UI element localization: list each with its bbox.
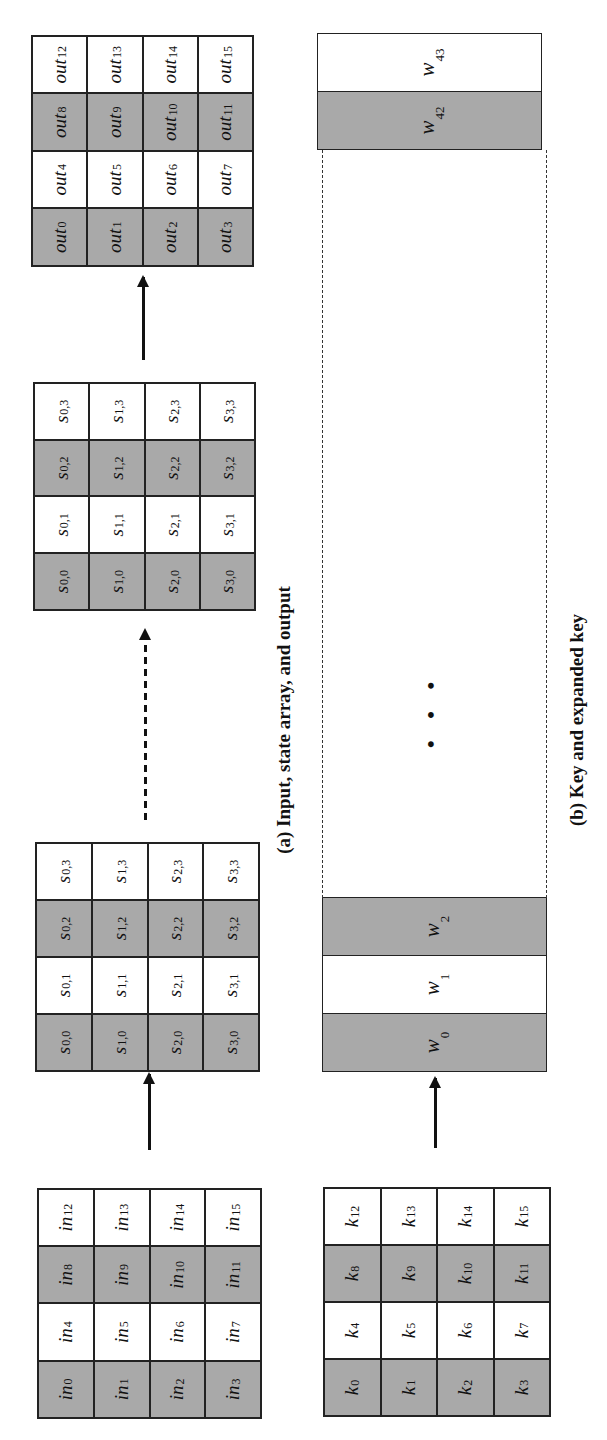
cell-base: k [341,1273,363,1281]
grid-cell: in6 [150,1304,206,1361]
cell-base: s [53,1047,75,1054]
cell-base: s [161,529,183,536]
cell-base: s [220,990,242,997]
cell-base: in [222,1385,244,1400]
cell-subscript: 5 [404,1323,419,1329]
ellipsis: • • • [418,674,444,748]
cell-subscript: 14 [461,1206,476,1218]
cell-subscript: 3,0 [223,570,238,585]
cell-subscript: 3,1 [223,513,238,528]
cell-subscript: 8 [61,1264,76,1270]
cell-subscript: 2,2 [168,456,183,471]
grid-cell: s3,0 [200,553,255,610]
grid-cell: s2,2 [148,900,204,957]
cell-subscript: 12 [55,46,70,58]
cell-base: out [214,229,236,253]
grid-cell: k11 [494,1245,551,1302]
cell-base: s [53,990,75,997]
cell-subscript: 14 [173,1204,188,1216]
grid-cell: s1,1 [92,957,148,1014]
grid-cell: s2,2 [145,440,200,497]
cell-base: s [53,933,75,940]
grid-cell: k15 [494,1188,551,1245]
word-w1: w1 [322,955,547,1014]
cell-subscript: 2,0 [171,1031,186,1046]
grid-cell: s3,2 [203,900,259,957]
grid-cell: in7 [205,1304,261,1361]
cell-subscript: 15 [229,1204,244,1216]
cell-subscript: 2 [461,1380,476,1386]
cell-subscript: 7 [229,1321,244,1327]
cell-subscript: 11 [229,1261,244,1273]
cell-subscript: 3,1 [227,974,242,989]
cell-subscript: 5 [117,1321,132,1327]
cell-base: k [398,1219,420,1227]
grid-cell: k2 [437,1359,494,1416]
cell-base: k [511,1330,533,1338]
cell-base: k [341,1330,363,1338]
grid-cell: out10 [143,94,198,152]
arrow-key-to-expanded [434,1078,437,1148]
cell-base: s [216,416,238,423]
cell-subscript: 3,3 [223,400,238,415]
cell-base: out [49,114,71,138]
cell-base: s [106,586,128,593]
cell-subscript: 9 [110,107,125,113]
cell-subscript: 12 [61,1204,76,1216]
grid-cell: s0,1 [34,497,89,554]
cell-subscript: 8 [55,107,70,113]
cell-base: out [104,114,126,138]
cell-subscript: 13 [404,1206,419,1218]
word-w2: w2 [322,897,547,956]
cell-subscript: 1 [117,1378,132,1384]
grid-cell: k7 [494,1302,551,1359]
cell-subscript: 1,1 [115,974,130,989]
cell-base: in [222,1328,244,1343]
cell-base: k [511,1219,533,1227]
cell-subscript: 1,3 [115,860,130,875]
cell-subscript: 0,3 [57,400,72,415]
cell-subscript: 3 [517,1380,532,1386]
state-array-initial: s0,0s1,0s2,0s3,0s0,1s1,1s2,1s3,1s0,2s1,2… [35,842,260,1072]
cell-base: out [104,59,126,83]
cell-subscript: 4 [55,164,70,170]
cell-subscript: 1 [110,222,125,228]
grid-cell: out7 [198,151,253,209]
cell-base: out [49,171,71,195]
cell-subscript: 1,3 [112,400,127,415]
cell-base: in [111,1328,133,1343]
grid-cell: s2,1 [148,957,204,1014]
grid-cell: out14 [143,36,198,94]
cell-base: out [159,59,181,83]
grid-cell: out1 [87,209,142,267]
grid-cell: s1,3 [89,383,144,440]
cell-subscript: 2 [173,1378,188,1384]
grid-cell: k8 [324,1245,381,1302]
cell-base: out [159,171,181,195]
cell-base: in [55,1271,77,1286]
key-grid: k0k1k2k3k4k5k6k7k8k9k10k11k12k13k14k15 [323,1187,551,1417]
cell-base: k [398,1387,420,1395]
cell-subscript: 1,2 [115,917,130,932]
grid-cell: in14 [150,1189,206,1246]
cell-subscript: 14 [166,46,181,58]
cell-subscript: 10 [166,104,181,116]
arrow-state-to-output [142,277,145,360]
output-grid: out0out1out2out3out4out5out6out7out8out9… [31,35,254,267]
grid-cell: in4 [38,1304,94,1361]
cell-base: in [222,1217,244,1232]
cell-base: k [454,1219,476,1227]
cell-subscript: 4 [348,1323,363,1329]
grid-cell: s1,1 [89,497,144,554]
word-w0: w0 [322,1013,547,1072]
grid-cell: s0,0 [34,553,89,610]
cell-subscript: 3 [221,222,236,228]
cell-base: s [106,472,128,479]
grid-cell: s3,1 [200,497,255,554]
cell-base: in [55,1217,77,1232]
grid-cell: s0,0 [36,1014,92,1071]
grid-cell: s2,3 [148,843,204,900]
grid-cell: k5 [381,1302,438,1359]
cell-subscript: 0,3 [59,860,74,875]
grid-cell: s3,2 [200,440,255,497]
